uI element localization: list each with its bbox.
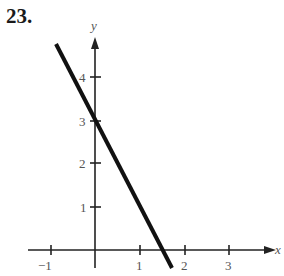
data-line bbox=[56, 44, 172, 268]
y-tick-label: 4 bbox=[79, 70, 86, 85]
x-tick-label: 3 bbox=[225, 258, 232, 273]
x-axis bbox=[28, 246, 276, 254]
x-axis-label: x bbox=[274, 242, 281, 257]
y-tick-label: 2 bbox=[79, 156, 86, 171]
y-axis-label: y bbox=[89, 18, 97, 33]
y-axis-arrow-icon bbox=[91, 37, 99, 49]
y-axis bbox=[91, 37, 99, 268]
x-tick-label: 2 bbox=[181, 258, 188, 273]
x-tick-label: 1 bbox=[136, 258, 143, 273]
y-tick-label: 3 bbox=[79, 114, 86, 129]
x-tick-label: −1 bbox=[38, 258, 52, 273]
y-tick-label: 1 bbox=[80, 200, 87, 215]
graph: −1 1 2 3 1 2 3 4 x y bbox=[0, 0, 284, 276]
